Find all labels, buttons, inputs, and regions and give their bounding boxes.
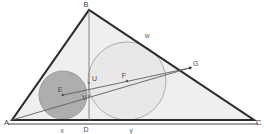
point-dot-c [253, 119, 255, 121]
vertex-label-c: C [256, 118, 262, 127]
segment-label-y: y [129, 127, 133, 134]
point-dot-e [62, 94, 64, 96]
segment-label-x: x [60, 127, 64, 134]
point-dot-g [189, 67, 192, 70]
vertex-label-a: A [4, 118, 9, 127]
point-label-d: D [83, 126, 88, 133]
point-label-g: G [193, 60, 198, 67]
point-dot-b [88, 9, 90, 11]
point-dot-d [88, 119, 90, 121]
point-dot-a [11, 119, 13, 121]
geometry-canvas: B A C D E F G U V w x y [0, 0, 264, 134]
point-label-u: U [92, 75, 97, 82]
segment-label-w: w [144, 32, 150, 39]
point-dot-v [88, 95, 90, 97]
point-dot-f [126, 80, 128, 82]
point-label-v: V [82, 94, 87, 101]
vertex-label-b: B [83, 0, 88, 9]
geometry-figure: B A C D E F G U V w x y [0, 0, 264, 134]
point-label-e: E [58, 86, 63, 93]
point-dot-u [88, 82, 90, 84]
point-label-f: F [122, 72, 126, 79]
